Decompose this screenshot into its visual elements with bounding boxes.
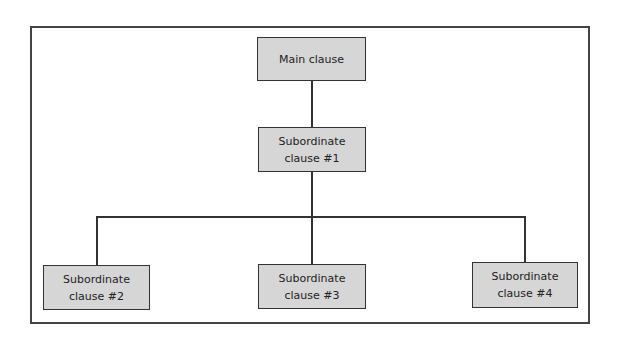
edge-to-sub3	[311, 216, 313, 264]
edge-main-sub1	[311, 81, 313, 127]
node-label: Subordinate clause #4	[485, 268, 565, 302]
node-subordinate-2: Subordinate clause #2	[43, 265, 150, 310]
node-label: Main clause	[279, 51, 344, 68]
node-subordinate-4: Subordinate clause #4	[472, 262, 578, 308]
node-subordinate-3: Subordinate clause #3	[258, 264, 366, 309]
node-label: Subordinate clause #1	[272, 133, 352, 167]
edge-sub1-trunk	[311, 172, 313, 217]
edge-to-sub2	[96, 216, 98, 265]
edge-to-sub4	[524, 216, 526, 262]
node-label: Subordinate clause #2	[57, 271, 137, 305]
node-main-clause: Main clause	[257, 37, 366, 81]
node-label: Subordinate clause #3	[272, 270, 352, 304]
node-subordinate-1: Subordinate clause #1	[258, 127, 366, 172]
